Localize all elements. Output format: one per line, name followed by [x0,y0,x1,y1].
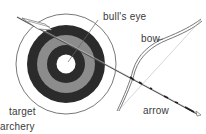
arrow-label: arrow [143,105,169,116]
bullseye-label: bull's eye [103,11,146,22]
figure-caption: archery [0,121,35,132]
target-label: target [9,106,36,117]
bow-label: bow [141,33,160,44]
target-icon [16,14,116,114]
